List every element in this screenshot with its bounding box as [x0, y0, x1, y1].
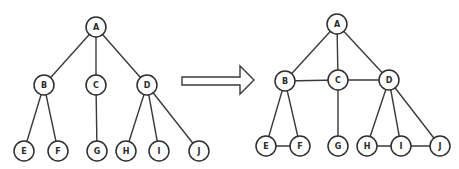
- right-node-j: J: [430, 136, 450, 156]
- left-node-g-label: G: [94, 147, 101, 156]
- left-node-b-label: B: [41, 81, 47, 90]
- right-node-i-label: I: [400, 142, 403, 151]
- right-edge-a-b: [285, 24, 337, 81]
- left-node-i: I: [149, 141, 169, 161]
- left-node-c-label: C: [93, 81, 99, 90]
- right-node-h-label: H: [364, 142, 371, 151]
- left-node-h-label: H: [123, 147, 130, 156]
- right-augmented-graph: ABCDEFGHIJ: [256, 14, 450, 156]
- right-node-h: H: [357, 136, 377, 156]
- left-edge-a-b: [44, 27, 96, 85]
- right-node-f: F: [290, 136, 310, 156]
- transform-arrow-icon: [182, 66, 254, 94]
- right-edge-a-d: [337, 24, 389, 80]
- left-node-a: A: [86, 17, 106, 37]
- right-edge-d-j: [389, 80, 440, 146]
- right-node-d-label: D: [386, 76, 393, 85]
- left-node-d: D: [137, 75, 157, 95]
- left-edge-d-j: [147, 85, 199, 151]
- right-node-g: G: [328, 136, 348, 156]
- right-node-e-label: E: [263, 142, 268, 151]
- left-edge-a-d: [96, 27, 147, 85]
- right-node-c: C: [328, 70, 348, 90]
- right-node-i: I: [391, 136, 411, 156]
- right-node-f-label: F: [297, 142, 302, 151]
- right-node-b: B: [275, 71, 295, 91]
- left-node-d-label: D: [144, 81, 151, 90]
- right-node-a: A: [327, 14, 347, 34]
- left-node-j-label: J: [197, 147, 201, 156]
- left-node-i-label: I: [158, 147, 161, 156]
- right-node-e: E: [256, 136, 276, 156]
- left-node-f-label: F: [55, 147, 60, 156]
- right-node-b-label: B: [282, 77, 288, 86]
- right-node-g-label: G: [335, 142, 342, 151]
- left-node-j: J: [189, 141, 209, 161]
- left-node-b: B: [34, 75, 54, 95]
- left-node-h: H: [116, 141, 136, 161]
- left-node-a-label: A: [93, 23, 100, 32]
- left-node-f: F: [48, 141, 68, 161]
- right-node-c-label: C: [335, 76, 341, 85]
- left-node-g: G: [87, 141, 107, 161]
- left-node-c: C: [86, 75, 106, 95]
- left-tree-graph: ABCDEFGHIJ: [14, 17, 209, 161]
- diagram-canvas: ABCDEFGHIJ ABCDEFGHIJ: [0, 0, 459, 169]
- left-node-e-label: E: [21, 147, 26, 156]
- right-node-j-label: J: [438, 142, 442, 151]
- right-node-d: D: [379, 70, 399, 90]
- right-node-a-label: A: [334, 20, 341, 29]
- left-node-e: E: [14, 141, 34, 161]
